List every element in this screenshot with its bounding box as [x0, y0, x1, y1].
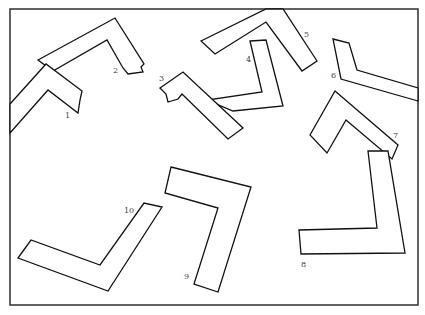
shape-label-3: 3	[159, 74, 164, 83]
shape-label-6: 6	[331, 71, 336, 80]
shape-label-5: 5	[304, 30, 309, 39]
shape-label-7: 7	[393, 131, 398, 140]
shape-label-10: 10	[124, 206, 134, 215]
shape-label-2: 2	[113, 66, 118, 75]
shape-label-9: 9	[184, 272, 189, 281]
figure-canvas: 2 1 5 4 3 6 7 8 9 10	[0, 0, 425, 315]
shape-label-1: 1	[65, 111, 70, 120]
shape-label-8: 8	[301, 260, 306, 269]
shape-label-4: 4	[246, 55, 251, 64]
puzzle-figure: 2 1 5 4 3 6 7 8 9 10	[0, 0, 425, 315]
